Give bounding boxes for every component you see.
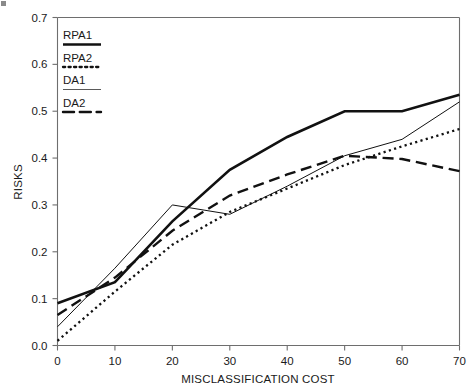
- legend-label-rpa2: RPA2: [63, 52, 92, 64]
- x-tick-label: 50: [338, 355, 351, 367]
- x-tick-label: 0: [54, 355, 60, 367]
- y-axis-title: RISKS: [12, 164, 24, 200]
- legend-label-da2: DA2: [63, 97, 85, 109]
- y-tick-label: 0.3: [32, 199, 48, 211]
- y-tick-label: 0.6: [32, 58, 48, 70]
- x-tick-label: 20: [166, 355, 179, 367]
- y-tick-label: 0.0: [32, 340, 48, 352]
- y-tick-label: 0.1: [32, 293, 48, 305]
- x-tick-label: 40: [281, 355, 294, 367]
- y-tick-label: 0.2: [32, 246, 48, 258]
- y-tick-label: 0.5: [32, 105, 48, 117]
- x-tick-label: 60: [396, 355, 409, 367]
- y-tick-label: 0.7: [32, 12, 48, 24]
- chart-container: 0.00.10.20.30.40.50.60.7 010203040506070…: [0, 0, 474, 388]
- x-tick-label: 30: [223, 355, 236, 367]
- x-tick-label: 10: [109, 355, 122, 367]
- x-tick-label: 70: [453, 355, 466, 367]
- y-tick-label: 0.4: [32, 152, 49, 164]
- legend-label-rpa1: RPA1: [63, 29, 92, 41]
- corner-mark: [1, 1, 6, 6]
- x-axis-title: MISCLASSIFICATION COST: [181, 373, 335, 385]
- risks-vs-misclassification-cost-line-chart: 0.00.10.20.30.40.50.60.7 010203040506070…: [0, 0, 474, 388]
- legend-label-da1: DA1: [63, 74, 85, 86]
